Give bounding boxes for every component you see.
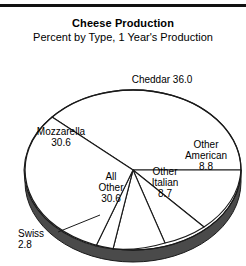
- pie-label-other-american-line1: Other: [172, 139, 240, 150]
- pie-label-other-italian-value: 8.7: [140, 188, 190, 199]
- pie-label-swiss-name: Swiss: [18, 228, 62, 239]
- pie-label-mozzarella-name: Mozzarella: [20, 126, 102, 137]
- pie-label-other-italian-line2: Italian: [140, 177, 190, 188]
- pie-label-mozzarella: Mozzarella 30.6: [20, 126, 102, 148]
- pie-label-swiss-value: 2.8: [18, 239, 62, 250]
- pie-label-all-other-line2: Other: [88, 182, 134, 193]
- cheese-production-chart-page: Cheese Production Percent by Type, 1 Yea…: [0, 0, 246, 266]
- pie-label-other-american-line2: American: [172, 150, 240, 161]
- pie-label-cheddar: Cheddar 36.0: [112, 74, 212, 85]
- pie-label-cheddar-value: 36.0: [173, 74, 192, 85]
- pie-label-all-other: All Other 30.6: [88, 171, 134, 204]
- pie-label-other-italian-line1: Other: [140, 166, 190, 177]
- pie-label-all-other-line1: All: [88, 171, 134, 182]
- pie-label-cheddar-name: Cheddar: [132, 74, 170, 85]
- pie-label-all-other-value: 30.6: [88, 193, 134, 204]
- pie-label-mozzarella-value: 30.6: [20, 137, 102, 148]
- pie-label-swiss: Swiss 2.8: [18, 228, 62, 250]
- pie-label-other-italian: Other Italian 8.7: [140, 166, 190, 199]
